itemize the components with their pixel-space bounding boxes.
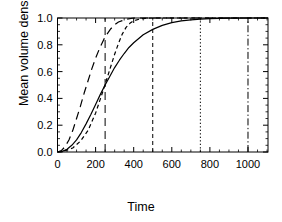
long-dashed-curve [58,18,269,152]
y-tick-label: 0.4 [37,92,52,104]
y-axis-label: Mean volume density [17,0,31,127]
x-axis-label: Time [0,200,282,214]
x-tick-label: 600 [163,158,181,170]
solid-curve [58,18,269,152]
vertical-reference-lines [105,18,248,152]
x-axis-minor-ticks [67,18,267,152]
axes-frame [58,18,269,152]
x-tick-label: 0 [54,158,60,170]
y-tick-label: 1.0 [37,12,52,24]
short-dashed-curve [58,18,269,152]
figure: 02004006008001000 0.00.20.40.60.81.0 Mea… [0,0,282,222]
chart-canvas: 02004006008001000 0.00.20.40.60.81.0 [0,0,282,222]
x-tick-label: 200 [86,158,104,170]
x-tick-label: 800 [201,158,219,170]
y-tick-label: 0.6 [37,66,52,78]
y-tick-label: 0.8 [37,39,52,51]
data-curves [58,18,269,152]
y-axis-ticks [58,18,269,152]
y-tick-label: 0.0 [37,146,52,158]
x-axis-tick-labels: 02004006008001000 [54,158,260,170]
x-tick-label: 1000 [236,158,260,170]
y-tick-label: 0.2 [37,119,52,131]
plot-frame [58,18,269,152]
x-tick-label: 400 [125,158,143,170]
y-axis-tick-labels: 0.00.20.40.60.81.0 [37,12,52,158]
